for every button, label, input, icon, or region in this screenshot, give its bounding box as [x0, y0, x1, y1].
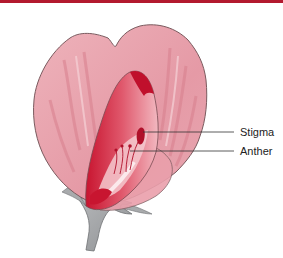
stigma-label: Stigma: [240, 126, 274, 138]
anther-label: Anther: [240, 145, 272, 157]
